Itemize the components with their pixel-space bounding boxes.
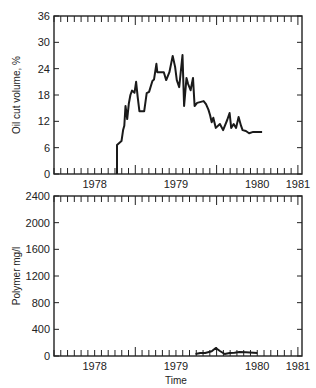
y-tick-label: 2000 <box>26 217 50 229</box>
y-tick-label: 36 <box>38 10 50 22</box>
y-tick-label: 400 <box>32 323 50 335</box>
y-tick-label: 2400 <box>26 190 50 202</box>
y-tick-label: 18 <box>38 89 50 101</box>
x-tick-label: 1979 <box>164 178 188 190</box>
y-tick-label: 24 <box>38 63 50 75</box>
y-tick-label: 0 <box>44 350 50 362</box>
x-tick-label: 1978 <box>82 360 106 372</box>
y-tick-label: 800 <box>32 297 50 309</box>
y-tick-label: 12 <box>38 115 50 127</box>
plot-frame <box>54 196 302 356</box>
polymer-plot: 040080012001600200024001978197919801981P… <box>11 190 310 386</box>
y-tick-label: 1600 <box>26 243 50 255</box>
y-tick-label: 1200 <box>26 270 50 282</box>
x-tick-label: 1979 <box>164 360 188 372</box>
x-tick-label: 1980 <box>245 178 269 190</box>
x-tick-label: 1981 <box>286 360 310 372</box>
x-axis-title: Time <box>165 375 187 386</box>
y-tick-label: 30 <box>38 36 50 48</box>
y-axis-title: Oil cut volume, % <box>11 56 22 134</box>
oil-cut-plot: 0612182430361978197919801981Oil cut volu… <box>11 10 310 190</box>
data-line <box>117 55 262 174</box>
x-tick-label: 1980 <box>245 360 269 372</box>
chart-canvas: 0612182430361978197919801981Oil cut volu… <box>0 0 316 388</box>
y-tick-label: 6 <box>44 142 50 154</box>
x-tick-label: 1978 <box>82 178 106 190</box>
y-tick-label: 0 <box>44 168 50 180</box>
data-line <box>196 348 258 354</box>
y-axis-title: Polymer mg/l <box>11 247 22 305</box>
x-tick-label: 1981 <box>286 178 310 190</box>
plot-frame <box>54 16 302 174</box>
